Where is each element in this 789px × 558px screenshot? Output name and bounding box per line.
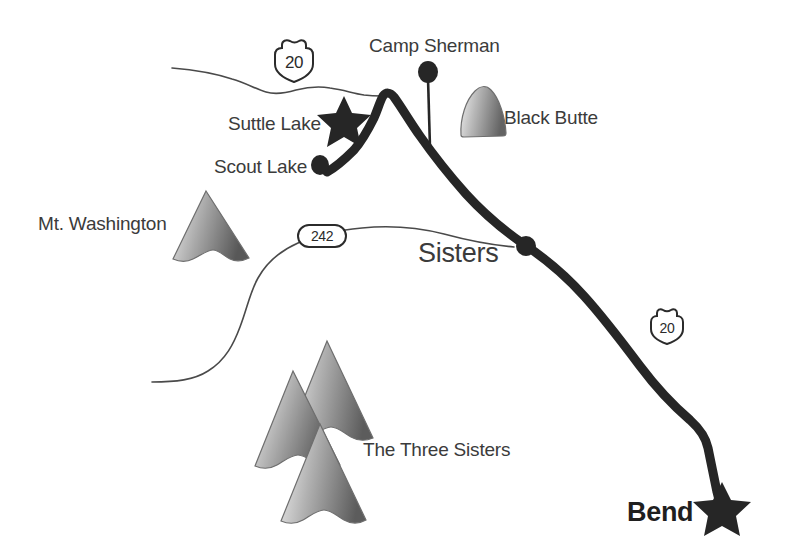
label-suttle-lake: Suttle Lake — [228, 113, 321, 134]
label-camp-sherman: Camp Sherman — [369, 35, 500, 56]
label-bend: Bend — [627, 497, 693, 527]
camp-sherman-pin-stem — [428, 78, 430, 148]
label-sisters: Sisters — [418, 238, 498, 268]
route-shield-or242[interactable]: 242 — [298, 225, 346, 247]
us-highway-shield-number-south: 20 — [660, 320, 675, 336]
route-shield-us20-north[interactable]: 20 — [275, 40, 313, 82]
bend-star-marker[interactable] — [693, 482, 751, 536]
label-mt-washington: Mt. Washington — [38, 213, 167, 234]
black-butte-mountain-shape — [461, 87, 506, 137]
label-three-sisters: The Three Sisters — [363, 439, 510, 460]
map-canvas: 20 242 20 — [0, 0, 789, 558]
us-highway-shield-number: 20 — [285, 53, 303, 72]
label-scout-lake: Scout Lake — [214, 156, 307, 177]
mt-washington-mountain-shape — [173, 191, 249, 261]
label-black-butte: Black Butte — [504, 107, 598, 128]
sisters-junction-dot-marker[interactable] — [516, 236, 536, 256]
scout-lake-dot-marker[interactable] — [311, 155, 329, 175]
state-route-number: 242 — [311, 228, 334, 244]
camp-sherman-pin-head-icon — [418, 61, 438, 83]
locator-map: 20 242 20 — [0, 0, 789, 558]
route-shield-us20-south[interactable]: 20 — [651, 309, 683, 344]
